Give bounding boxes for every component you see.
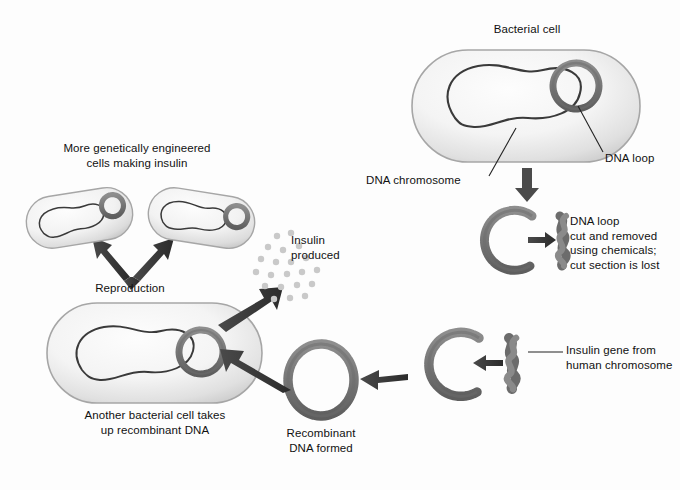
- diagram-canvas: Bacterial cell DNA chromosome DNA loop D…: [0, 0, 680, 490]
- insulin-molecule-dot: [299, 269, 305, 275]
- bacterial-cell-main: [412, 50, 640, 162]
- insulin-molecule-dot: [309, 281, 315, 287]
- label-bacterial-cell: Bacterial cell: [494, 22, 561, 37]
- daughter-cell-right: [145, 184, 259, 252]
- cut-section-fragment: [558, 216, 566, 266]
- arrow-cell-to-cut-loop: [515, 168, 539, 202]
- insulin-molecule-dot: [258, 256, 264, 262]
- label-reproduction: Reproduction: [95, 281, 165, 296]
- insulin-molecule-dot: [265, 244, 271, 250]
- lower-loop-core-arc: [429, 332, 479, 396]
- arrow-cut-loop-to-fragment: [528, 232, 556, 248]
- recombinant-core-ring: [288, 344, 354, 416]
- insulin-molecule-dot: [280, 247, 286, 253]
- insulin-gene-fragment: [507, 338, 516, 389]
- insulin-molecule-dot: [294, 282, 300, 288]
- insulin-molecule-dot: [253, 269, 259, 275]
- cell-membrane: [412, 50, 640, 162]
- insulin-molecule-dot: [274, 233, 280, 239]
- label-insulin-produced: Insulin produced: [291, 233, 340, 262]
- label-another-bacterial-cell: Another bacterial cell takes up recombin…: [85, 408, 226, 437]
- label-dna-loop: DNA loop: [605, 151, 654, 166]
- insulin-molecule-dot: [273, 259, 279, 265]
- label-dna-chromosome: DNA chromosome: [366, 173, 461, 188]
- label-more-engineered-cells: More genetically engineered cells making…: [63, 141, 210, 170]
- cut-loop-receiving-gene: [429, 332, 479, 396]
- daughter-cell-left: [23, 184, 137, 252]
- arrow-loop-to-recombinant: [360, 370, 408, 390]
- insulin-molecule-dot: [287, 295, 293, 301]
- label-recombinant-dna: Recombinant DNA formed: [287, 426, 356, 455]
- insulin-molecule-dot: [302, 293, 308, 299]
- cut-dna-loop: [484, 210, 532, 270]
- arrow-gene-into-loop: [473, 355, 503, 371]
- insulin-molecule-dot: [268, 272, 274, 278]
- insulin-molecule-dot: [262, 283, 268, 289]
- insulin-molecule-dot: [271, 296, 277, 302]
- insulin-molecule-dot: [284, 271, 290, 277]
- insulin-molecule-dot: [278, 284, 284, 290]
- label-insulin-gene: Insulin gene from human chromosome: [566, 343, 672, 372]
- recombinant-dna-loop: [288, 344, 354, 416]
- insulin-molecule-dot: [314, 267, 320, 273]
- label-dna-loop-cut: DNA loop cut and removed using chemicals…: [570, 214, 659, 272]
- cut-loop-core-arc: [484, 210, 532, 270]
